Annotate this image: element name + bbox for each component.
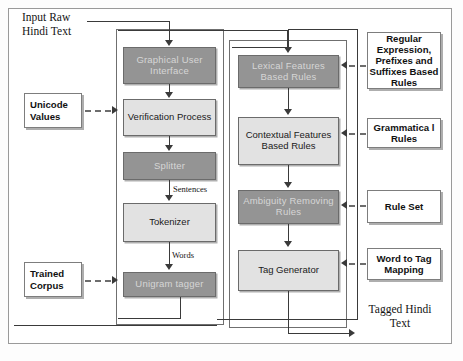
store-grammatical-rules[interactable]: Grammatica l Rules (367, 118, 441, 148)
connector-input-vertical (169, 21, 170, 41)
connector-input-branch-horizontal2 (232, 47, 288, 48)
connector-right-return-vertical (357, 29, 358, 320)
arrowhead-verification-to-splitter (165, 145, 173, 151)
arrowhead-ruleset-to-ambiguity (341, 201, 347, 209)
node-tag-generator[interactable]: Tag Generator (238, 250, 339, 291)
connector-output-horizontal (288, 333, 350, 334)
dashed-ruleset-to-ambiguity (349, 205, 366, 207)
store-label: Grammatica l Rules (368, 122, 440, 144)
connector-to-lexical-vertical (288, 30, 289, 48)
connector-input-branch-horizontal (118, 30, 288, 31)
store-word-to-tag-mapping[interactable]: Word to Tag Mapping (367, 248, 441, 280)
dashed-unicode-to-verification (85, 110, 111, 112)
node-label: Verification Process (126, 112, 213, 123)
arrowhead-regex-to-lexical (341, 61, 347, 69)
arrowhead-input-to-lexical (284, 47, 292, 53)
node-label: Contextual Features Based Rules (239, 130, 338, 151)
store-regular-expression-prefixes-suffixes-based-rules[interactable]: Regular Expression, Prefixes and Suffixe… (367, 32, 441, 89)
store-label: Word to Tag Mapping (368, 253, 440, 275)
edge-label-words: Words (172, 250, 194, 260)
node-label: Lexical Features Based Rules (239, 61, 338, 82)
arrowhead-gui-to-verification (165, 92, 173, 98)
store-label: Trained Corpus (25, 268, 81, 290)
dashed-grammatical-to-contextual (349, 133, 366, 135)
connector-lexical-to-contextual (288, 88, 289, 109)
arrowhead-grammatical-to-contextual (341, 129, 347, 137)
connector-taggenerator-down (288, 291, 289, 334)
arrowhead-tokenizer-to-unigram (165, 264, 173, 270)
arrowhead-splitter-to-tokenizer (165, 195, 173, 201)
arrowhead-wordtotag-to-taggenerator (341, 259, 347, 267)
store-trained-corpus[interactable]: Trained Corpus (24, 262, 82, 297)
connector-input-horizontal (87, 21, 170, 22)
connector-unigram-down (180, 297, 181, 319)
arrowhead-contextual-to-ambiguity (284, 182, 292, 188)
node-contextual-features-based-rules[interactable]: Contextual Features Based Rules (238, 117, 339, 165)
node-label: Graphical User Interface (124, 55, 215, 76)
connector-contextual-to-ambiguity (288, 165, 289, 182)
architecture-diagram: Input Raw Hindi Text Tagged Hindi Text G… (0, 0, 463, 361)
connector-top-return-bus (288, 29, 358, 30)
dashed-wordtotag-to-taggenerator (349, 263, 366, 265)
arrowhead-to-output (349, 329, 355, 337)
connector-left-column-bottom-bus (14, 325, 217, 326)
arrowhead-lexical-to-contextual (284, 109, 292, 115)
node-label: Tokenizer (147, 217, 192, 228)
edge-label-sentences: Sentences (173, 184, 207, 194)
store-label: Regular Expression, Prefixes and Suffixe… (368, 33, 440, 89)
connector-tokenizer-to-unigram (169, 242, 170, 265)
store-label: Unicode Values (25, 99, 81, 121)
node-graphical-user-interface[interactable]: Graphical User Interface (123, 47, 216, 84)
connector-splitter-to-tokenizer (169, 180, 170, 196)
node-lexical-features-based-rules[interactable]: Lexical Features Based Rules (238, 55, 339, 88)
node-tokenizer[interactable]: Tokenizer (123, 203, 216, 242)
dashed-corpus-to-unigram (85, 280, 111, 282)
node-unigram-tagger[interactable]: Unigram tagger (123, 272, 216, 297)
node-label: Splitter (152, 161, 187, 172)
connector-ambiguity-to-taggenerator (288, 224, 289, 242)
connector-bottom-return-bus (217, 319, 358, 320)
node-verification-process[interactable]: Verification Process (123, 99, 216, 136)
node-label: Ambiguity Removing Rules (239, 196, 338, 217)
arrowhead-unicode-to-verification (112, 106, 118, 114)
arrowhead-input-to-gui (165, 40, 173, 46)
store-label: Rule Set (385, 201, 423, 212)
store-rule-set[interactable]: Rule Set (367, 190, 441, 223)
input-caption: Input Raw Hindi Text (22, 10, 106, 39)
connector-unigram-bottom (118, 318, 181, 319)
output-caption: Tagged Hindi Text (352, 302, 448, 331)
arrowhead-corpus-to-unigram (112, 276, 118, 284)
dashed-regex-to-lexical (349, 65, 366, 67)
arrowhead-ambiguity-to-taggenerator (284, 241, 292, 247)
node-ambiguity-removing-rules[interactable]: Ambiguity Removing Rules (238, 190, 339, 224)
node-splitter[interactable]: Splitter (123, 152, 216, 180)
store-unicode-values[interactable]: Unicode Values (24, 93, 82, 128)
node-label: Unigram tagger (133, 279, 205, 290)
node-label: Tag Generator (256, 265, 321, 276)
